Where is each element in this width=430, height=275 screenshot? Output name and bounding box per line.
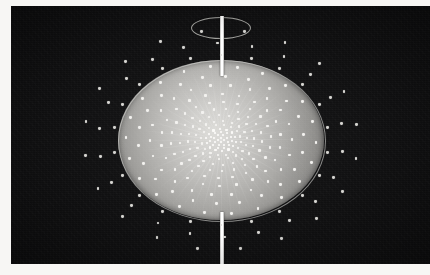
sample-point: [231, 176, 234, 179]
sample-point: [220, 131, 222, 133]
sample-point: [251, 178, 254, 181]
sample-point: [188, 99, 191, 102]
sample-point: [138, 177, 141, 180]
sample-point: [179, 83, 182, 86]
sample-point: [225, 154, 227, 156]
sample-point: [208, 133, 210, 135]
sample-point: [213, 121, 215, 123]
sample-point: [201, 142, 203, 144]
sample-point: [279, 183, 282, 186]
sample-point: [315, 141, 318, 144]
sample-point: [161, 67, 164, 70]
sample-point: [189, 220, 192, 223]
sample-point: [239, 247, 242, 250]
sample-point: [149, 139, 152, 142]
plot-field: [11, 6, 430, 264]
sample-point: [156, 236, 159, 239]
sample-point: [219, 128, 221, 130]
sample-point: [235, 141, 237, 143]
sample-point: [230, 136, 232, 138]
sample-point: [121, 103, 124, 106]
sample-point: [200, 30, 203, 33]
sample-point: [221, 93, 224, 96]
sample-point: [98, 87, 101, 90]
sample-point: [237, 118, 239, 120]
sample-point: [138, 194, 141, 197]
sample-point: [187, 140, 189, 142]
sample-point: [278, 67, 281, 70]
sample-point: [121, 215, 124, 218]
sample-point: [253, 137, 255, 139]
sample-point: [160, 144, 163, 147]
sample-point: [85, 120, 88, 123]
sample-point: [191, 189, 194, 192]
sample-point: [301, 83, 304, 86]
sample-point: [268, 87, 271, 90]
sample-point: [309, 73, 312, 76]
sample-point: [217, 177, 220, 180]
sample-point: [217, 154, 219, 156]
sample-point: [182, 46, 185, 49]
sample-point: [355, 157, 358, 160]
sample-point: [278, 210, 281, 213]
sample-point: [248, 152, 250, 154]
sample-point: [196, 147, 198, 149]
sample-point: [159, 40, 162, 43]
sample-point: [217, 139, 219, 141]
sample-point: [280, 196, 283, 199]
figure-root: Spherical point distribution on a shaded…: [0, 0, 430, 275]
sample-point: [257, 207, 260, 210]
sample-point: [301, 194, 304, 197]
sample-point: [113, 126, 116, 129]
sample-point: [107, 101, 110, 104]
sample-point: [173, 153, 176, 156]
sample-point: [178, 205, 181, 208]
sample-point: [227, 148, 229, 150]
sample-point: [245, 123, 247, 125]
sample-point: [212, 129, 214, 131]
sample-point: [251, 130, 253, 132]
sample-point: [160, 94, 163, 97]
sample-point: [284, 41, 287, 44]
sample-point: [84, 154, 87, 157]
sample-point: [235, 154, 237, 156]
sample-point: [189, 232, 192, 235]
sample-point: [138, 126, 141, 129]
sample-point: [197, 165, 199, 167]
sample-point: [231, 122, 233, 124]
sample-point: [146, 109, 149, 112]
sample-point: [340, 122, 343, 125]
sample-point: [130, 204, 133, 207]
sample-point: [267, 180, 270, 183]
sample-point: [355, 123, 358, 126]
sample-point: [223, 144, 225, 146]
sample-point: [110, 181, 113, 184]
sample-point: [216, 42, 219, 45]
sample-point: [288, 219, 291, 222]
sample-point: [209, 146, 211, 148]
sample-point: [264, 156, 267, 159]
sample-point: [229, 84, 232, 87]
sample-point: [241, 150, 243, 152]
sample-point: [297, 115, 300, 118]
sample-point: [128, 157, 131, 160]
sample-point: [343, 90, 346, 93]
sample-point: [209, 169, 211, 171]
sample-point: [279, 133, 282, 136]
sample-point: [280, 237, 283, 240]
sample-point: [230, 193, 233, 196]
sample-point: [208, 102, 211, 105]
sample-point: [204, 148, 206, 150]
sample-point: [121, 174, 124, 177]
sample-point: [210, 193, 213, 196]
sample-point: [191, 117, 193, 119]
sample-point: [341, 150, 344, 153]
sample-point: [284, 84, 287, 87]
sample-point: [261, 140, 263, 142]
sample-point: [223, 147, 225, 149]
sample-point: [194, 155, 196, 157]
sample-point: [270, 135, 273, 138]
sample-point: [201, 76, 204, 79]
sample-point: [269, 146, 272, 149]
sample-point: [318, 174, 321, 177]
